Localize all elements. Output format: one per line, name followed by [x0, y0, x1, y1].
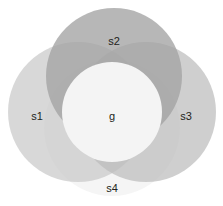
intersection-circle-g: [62, 62, 162, 162]
set-diagram: s1 s2 s3 s4 g: [0, 0, 223, 206]
venn-diagram-svg: s1 s2 s3 s4 g: [0, 0, 223, 206]
